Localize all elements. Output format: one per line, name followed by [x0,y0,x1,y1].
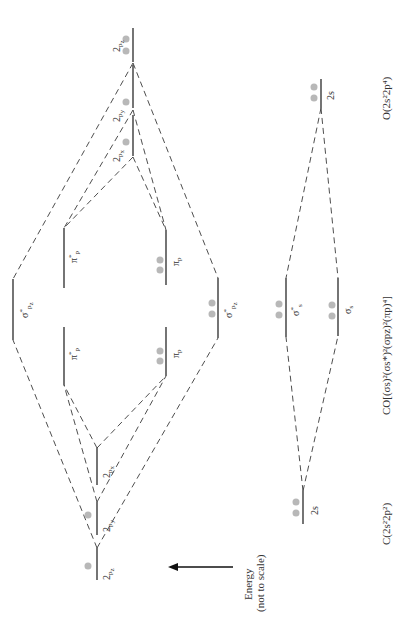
c-2py-label: 2py [101,520,116,533]
sigma-s-label: σs [342,306,355,314]
electron [157,358,164,365]
electron [276,312,283,319]
o-2s-label: 2s [325,91,336,100]
sigma-pz-label: σ*pz [222,303,239,319]
oxygen-config-label: O(2s²2p⁴) [380,76,393,120]
electron [157,348,164,355]
electron [123,99,130,106]
sigma-pz-star-label: σ*pz [18,303,35,319]
o-2px-label: 2px [111,150,126,163]
electron [85,563,92,570]
electron [123,48,130,55]
pi-star-label-2: π*p [67,347,81,360]
electron [209,300,216,307]
mo-diagram: 2pz 2py 2px 2s 2px 2py 2pz 2s σ*pz [0,0,397,623]
sigma-s-star-label: σ*s [289,304,304,316]
o-2py-label: 2py [111,110,126,123]
electron [209,311,216,318]
electron [157,267,164,274]
not-to-scale-label: (not to scale) [254,554,267,612]
pi-star-label-1: π*p [67,250,81,263]
arrowhead-icon [168,563,178,571]
carbon-config-label: C(2s²2p²) [380,503,393,545]
energy-axis: Energy (not to scale) [168,554,267,612]
pi-label-2: πp [170,349,183,358]
pi-label-1: πp [170,257,183,266]
energy-label: Energy [242,568,254,600]
electron [123,139,130,146]
electron [85,512,92,519]
electron [329,313,336,320]
configuration-labels: C(2s²2p²) CO[(σs)²(σs*)²(σpz)²(πp)⁴] O(2… [380,76,393,545]
correlation-lines [13,63,338,548]
oxygen-2s-level: 2s [311,79,337,108]
electron [157,257,164,264]
molecular-orbitals: σ*pz π*p π*p πp πp σ*pz σ*s σs [13,228,355,385]
c-2s-label: 2s [309,506,320,515]
oxygen-2p-levels: 2pz 2py 2px [111,28,133,162]
carbon-2s-level: 2s [293,491,321,524]
c-2px-label: 2px [101,466,116,479]
electron [276,301,283,308]
electron [293,499,300,506]
carbon-2p-levels: 2px 2py 2pz [85,448,117,580]
c-2pz-label: 2pz [101,568,116,580]
electron [293,510,300,517]
electron [311,84,318,91]
electron [311,95,318,102]
co-config-label: CO[(σs)²(σs*)²(σpz)²(πp)⁴] [380,296,393,415]
electron [329,302,336,309]
